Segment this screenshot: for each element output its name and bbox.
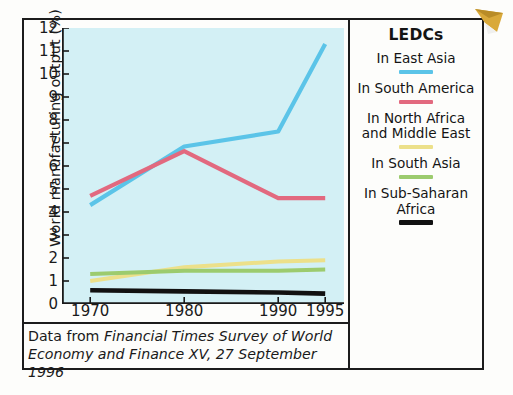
y-tick-label: 10 (36, 67, 58, 82)
y-tick-label: 1 (36, 274, 58, 289)
x-tick-label: 1970 (71, 302, 109, 320)
y-tick-label: 6 (36, 159, 58, 174)
y-axis-tick-labels: 0123456789101112 (30, 28, 58, 304)
y-tick-label: 12 (36, 21, 58, 36)
legend-item[interactable]: In South Asia (352, 156, 480, 179)
legend-color-swatch (399, 145, 433, 149)
legend-item[interactable]: In East Asia (352, 51, 480, 74)
legend-item-label: In East Asia (352, 51, 480, 67)
line-chart-svg (62, 28, 344, 304)
legend-color-swatch (399, 70, 433, 74)
x-axis-tick-labels: 1970198019901995 (62, 300, 344, 324)
y-tick-label: 4 (36, 205, 58, 220)
x-tick-label: 1995 (306, 302, 344, 320)
y-tick-label: 5 (36, 182, 58, 197)
legend-item[interactable]: In Sub-Saharan Africa (352, 186, 480, 226)
legend-color-swatch (399, 100, 433, 104)
figure-border-right (482, 18, 484, 370)
x-tick-label: 1980 (165, 302, 203, 320)
figure-border-left (22, 18, 24, 370)
legend-color-swatch (399, 220, 433, 225)
y-tick-label: 3 (36, 228, 58, 243)
legend-color-swatch (399, 175, 433, 179)
y-tick-label: 2 (36, 251, 58, 266)
x-tick-label: 1990 (259, 302, 297, 320)
legend-item-label: In Sub-Saharan Africa (352, 186, 480, 218)
legend-item-label: In South America (352, 81, 480, 97)
legend-title: LEDCs (352, 26, 480, 44)
y-tick-label: 11 (36, 44, 58, 59)
legend-item-label: In South Asia (352, 156, 480, 172)
plot-area (62, 28, 344, 304)
y-tick-label: 7 (36, 136, 58, 151)
figure-border-top (22, 18, 484, 20)
chart-legend: LEDCs In East AsiaIn South AmericaIn Nor… (352, 26, 480, 232)
folded-page-corner-icon (473, 6, 507, 36)
legend-divider (348, 18, 350, 370)
legend-item[interactable]: In South America (352, 81, 480, 104)
caption-prefix: Data from (28, 328, 104, 344)
y-tick-label: 0 (36, 297, 58, 312)
y-tick-label: 9 (36, 90, 58, 105)
figure-caption: Data from Financial Times Survey of Worl… (28, 327, 346, 382)
legend-item-label: In North Africa and Middle East (352, 111, 480, 143)
legend-item[interactable]: In North Africa and Middle East (352, 111, 480, 150)
y-tick-label: 8 (36, 113, 58, 128)
legend-items: In East AsiaIn South AmericaIn North Afr… (352, 51, 480, 225)
chart-figure: World manufacturing output (%) 012345678… (0, 0, 513, 395)
